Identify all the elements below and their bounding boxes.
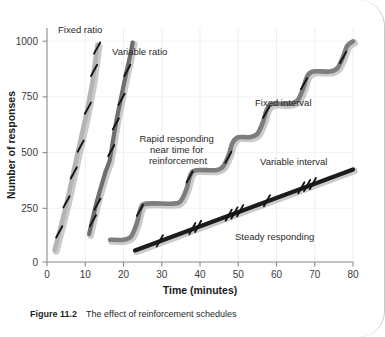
- rapid-responding-label: Rapid responding near time for reinforce…: [139, 133, 216, 166]
- figure-caption-text: The effect of reinforcement schedules: [86, 309, 236, 319]
- y-tick-label-750: 750: [21, 91, 38, 102]
- x-tick-label-10: 10: [80, 269, 92, 280]
- x-tick-label-40: 40: [194, 269, 206, 280]
- x-tick-label-50: 50: [233, 269, 245, 280]
- y-axis-ticks: [43, 41, 48, 262]
- x-tick-label-30: 30: [156, 269, 168, 280]
- x-tick-label-60: 60: [271, 269, 283, 280]
- figure-caption: Figure 11.2The effect of reinforcement s…: [30, 309, 350, 319]
- rapid-responding-line-3: reinforcement: [149, 155, 207, 166]
- variable-interval-label: Variable interval: [260, 156, 327, 167]
- figure-page-card: 0 250 500 750 1000 0 10 20 30 40 50 60 7…: [0, 0, 385, 337]
- rapid-responding-line-2: near time for: [150, 144, 203, 155]
- x-axis-title: Time (minutes): [163, 284, 237, 296]
- figure-container: 0 250 500 750 1000 0 10 20 30 40 50 60 7…: [0, 0, 371, 337]
- x-tick-label-20: 20: [118, 269, 130, 280]
- fixed-ratio-label: Fixed ratio: [58, 24, 102, 35]
- x-axis-ticks: [47, 262, 353, 267]
- reinforcement-schedules-chart: 0 250 500 750 1000 0 10 20 30 40 50 60 7…: [0, 0, 371, 300]
- steady-responding-label: Steady responding: [235, 231, 314, 242]
- fixed-interval-label: Fixed interval: [255, 97, 312, 108]
- y-tick-label-500: 500: [21, 147, 38, 158]
- rapid-responding-line-1: Rapid responding: [139, 133, 213, 144]
- y-axis-title: Number of responses: [5, 91, 17, 199]
- x-tick-label-0: 0: [44, 269, 50, 280]
- y-tick-label-0: 0: [32, 257, 38, 268]
- x-tick-label-70: 70: [309, 269, 321, 280]
- figure-caption-label: Figure 11.2: [30, 309, 77, 319]
- variable-ratio-label: Variable ratio: [112, 46, 167, 57]
- x-tick-label-80: 80: [347, 269, 359, 280]
- y-tick-label-250: 250: [21, 203, 38, 214]
- y-tick-label-1000: 1000: [16, 36, 39, 47]
